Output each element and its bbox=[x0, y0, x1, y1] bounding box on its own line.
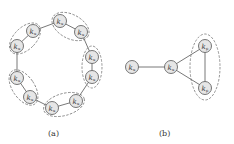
node-ku: ku bbox=[75, 26, 88, 39]
panel-b-nodes: ku ku kp kp bbox=[126, 40, 212, 95]
node-ku: ku bbox=[86, 71, 99, 84]
node-kp: kp bbox=[199, 82, 212, 95]
node-ku: ku bbox=[11, 72, 24, 85]
caption-a: (a) bbox=[48, 129, 59, 138]
caption-b: (b) bbox=[159, 129, 170, 138]
node-ku: ku bbox=[126, 61, 139, 74]
panel-a-nodes: ku ku ku ku ku ku ku ku ku ku bbox=[11, 15, 99, 115]
node-ku: ku bbox=[86, 51, 99, 64]
node-ku: ku bbox=[27, 25, 40, 38]
diagram-canvas: ku ku ku ku ku ku ku ku ku ku (a) ku ku … bbox=[0, 0, 234, 144]
node-ku: ku bbox=[46, 102, 59, 115]
node-kp: kp bbox=[199, 40, 212, 53]
node-ku: ku bbox=[24, 91, 37, 104]
node-ku: ku bbox=[11, 40, 24, 53]
node-ku: ku bbox=[165, 61, 178, 74]
node-ku: ku bbox=[70, 95, 83, 108]
node-ku: ku bbox=[54, 15, 67, 28]
